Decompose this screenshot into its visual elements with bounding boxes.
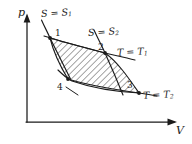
isentrope-s2-label: S = S2 (88, 26, 120, 38)
isentrope-s1-label: S = S1 (41, 7, 73, 19)
pv-diagram-figure: p V S = S1 S = S2 T = T1 T = T2 1 2 3 4 (0, 0, 192, 144)
state-point-1-marker (48, 36, 52, 40)
state-point-2-label: 2 (98, 43, 104, 52)
isotherm-t1-label-text: T = T (117, 45, 144, 57)
state-point-3-marker (137, 91, 141, 95)
isentrope-s2-label-text: S = S (88, 25, 116, 38)
isotherm-t2-label-text: T = T (143, 88, 170, 100)
isentrope-s1-label-sub: 1 (68, 10, 72, 17)
isotherm-t2-label-sub: 2 (170, 92, 174, 99)
state-point-1-label: 1 (55, 29, 61, 38)
isotherm-t2-label: T = T2 (143, 89, 174, 101)
x-axis-label: V (176, 125, 184, 136)
y-axis-label: p (18, 7, 25, 18)
state-point-3-label: 3 (127, 81, 133, 90)
isotherm-t1-label: T = T1 (117, 46, 148, 58)
isentrope-s2-label-sub: 2 (115, 29, 119, 36)
isotherm-t1-label-sub: 1 (144, 49, 148, 56)
state-point-4-marker (66, 77, 70, 81)
diagram-canvas (0, 0, 192, 144)
isentrope-s1-label-text: S = S (41, 6, 69, 19)
point-4-leader-line (66, 87, 78, 95)
state-point-4-label: 4 (57, 83, 63, 92)
